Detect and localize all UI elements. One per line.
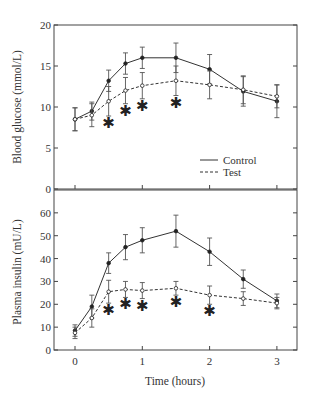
test-marker bbox=[208, 83, 212, 87]
y-tick-label: 10 bbox=[40, 321, 52, 333]
control-marker bbox=[174, 229, 178, 233]
x-tick-label: 0 bbox=[72, 355, 78, 367]
control-marker bbox=[141, 238, 145, 242]
y-tick-label: 20 bbox=[40, 19, 52, 31]
y-tick-label: 50 bbox=[40, 230, 52, 242]
test-marker bbox=[174, 286, 178, 290]
test-marker bbox=[90, 316, 94, 320]
control-marker bbox=[141, 56, 145, 60]
y-tick-label: 5 bbox=[46, 142, 52, 154]
y-tick-label: 0 bbox=[46, 183, 52, 195]
test-marker bbox=[275, 301, 279, 305]
y-tick-label: 30 bbox=[40, 275, 52, 287]
significance-star-icon: ✱ bbox=[119, 295, 132, 313]
y-tick-label: 20 bbox=[40, 298, 52, 310]
test-marker bbox=[124, 89, 128, 93]
test-marker bbox=[73, 331, 77, 335]
control-marker bbox=[174, 56, 178, 60]
bottom-y-axis-label: Plasma insulin (mU/L) bbox=[11, 219, 24, 325]
test-marker bbox=[107, 99, 111, 103]
test-marker bbox=[124, 288, 128, 292]
test-marker bbox=[208, 293, 212, 297]
test-marker bbox=[241, 88, 245, 92]
test-marker bbox=[73, 118, 77, 122]
significance-star-icon: ✱ bbox=[170, 94, 183, 112]
control-marker bbox=[241, 277, 245, 281]
y-tick-label: 0 bbox=[46, 344, 52, 356]
y-tick-label: 10 bbox=[40, 101, 52, 113]
significance-star-icon: ✱ bbox=[170, 293, 183, 311]
test-marker bbox=[107, 290, 111, 294]
control-marker bbox=[107, 261, 111, 265]
control-marker bbox=[124, 245, 128, 249]
control-marker bbox=[107, 79, 111, 83]
y-tick-label: 60 bbox=[40, 207, 52, 219]
significance-star-icon: ✱ bbox=[136, 297, 149, 315]
legend-test-label: Test bbox=[223, 166, 241, 178]
top-x-axis bbox=[75, 185, 277, 189]
legend: Control Test bbox=[200, 154, 257, 178]
significance-star-icon: ✱ bbox=[102, 114, 115, 132]
x-tick-label: 3 bbox=[274, 355, 280, 367]
significance-star-icon: ✱ bbox=[102, 301, 115, 319]
bottom-series-group: ✱✱✱✱✱ bbox=[73, 215, 280, 338]
significance-star-icon: ✱ bbox=[119, 102, 132, 120]
x-tick-label: 1 bbox=[140, 355, 146, 367]
control-marker bbox=[90, 305, 94, 309]
top-series-group: ✱✱✱✱ bbox=[73, 43, 280, 132]
top-panel: 05101520 Blood glucose (mmol/L) ✱✱✱✱ Con… bbox=[11, 19, 297, 195]
top-y-axis: 05101520 bbox=[40, 19, 297, 195]
test-marker bbox=[174, 79, 178, 83]
significance-star-icon: ✱ bbox=[136, 97, 149, 115]
legend-control-label: Control bbox=[223, 154, 257, 166]
y-tick-label: 40 bbox=[40, 253, 52, 265]
test-marker bbox=[141, 84, 145, 88]
y-tick-label: 15 bbox=[40, 60, 52, 72]
chart-figure: 05101520 Blood glucose (mmol/L) ✱✱✱✱ Con… bbox=[0, 0, 313, 404]
significance-star-icon: ✱ bbox=[203, 302, 216, 320]
test-marker bbox=[275, 95, 279, 99]
test-marker bbox=[241, 297, 245, 301]
top-y-axis-label: Blood glucose (mmol/L) bbox=[11, 50, 24, 164]
bottom-panel: 0102030405060 0123 Plasma insulin (mU/L)… bbox=[11, 190, 297, 388]
x-tick-label: 2 bbox=[207, 355, 213, 367]
control-marker bbox=[208, 250, 212, 254]
bottom-y-axis: 0102030405060 bbox=[40, 207, 297, 356]
bottom-x-axis: 0123 bbox=[72, 346, 280, 367]
bottom-plot-frame bbox=[54, 190, 297, 350]
test-marker bbox=[141, 289, 145, 293]
test-marker bbox=[90, 113, 94, 117]
control-marker bbox=[124, 62, 128, 66]
x-axis-label: Time (hours) bbox=[145, 375, 205, 388]
